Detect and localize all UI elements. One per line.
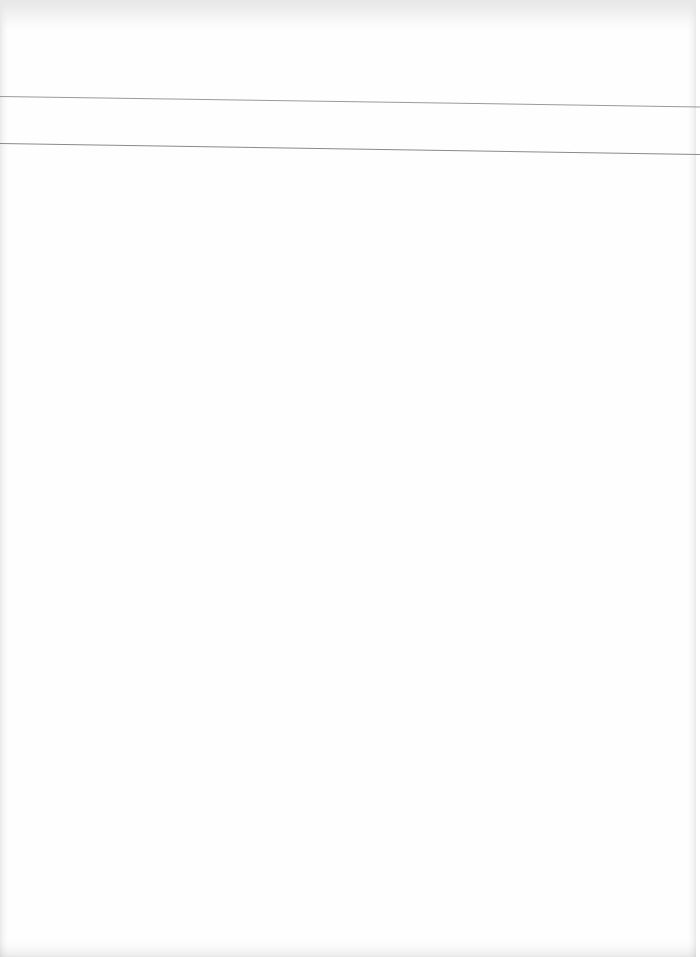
ruled-line-top [0,96,700,107]
scan-edge-shading [0,0,696,30]
ruled-line-bottom [0,143,700,155]
